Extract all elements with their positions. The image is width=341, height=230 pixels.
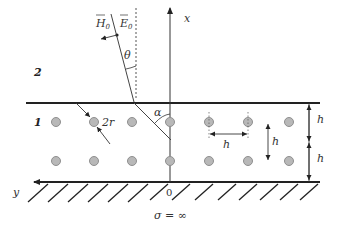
- h-horizontal-label: h: [223, 138, 230, 151]
- alpha-label: α: [154, 106, 162, 119]
- diameter-label: 2r: [101, 116, 115, 129]
- h-right-top-label: h: [317, 113, 324, 126]
- conductivity-label: σ = ∞: [154, 209, 187, 222]
- theta-label: θ: [124, 49, 131, 62]
- x-axis-label: x: [184, 12, 191, 25]
- region-2-label: 2: [33, 66, 42, 79]
- E0-label: E0: [119, 17, 133, 31]
- region-1-label: 1: [34, 116, 42, 129]
- cylinder-row-bottom: [52, 157, 294, 166]
- waveguide-diagram: x H0 E0 θ α 2 1 2r: [0, 0, 341, 230]
- theta-arc: [126, 66, 136, 69]
- diameter-pointer-top: [76, 103, 90, 117]
- y-axis-label: y: [12, 186, 20, 199]
- diameter-pointer-bottom: [97, 127, 110, 144]
- origin-label: 0: [166, 187, 172, 198]
- H0-vector-arrow: [101, 35, 117, 39]
- cylinder-row-top: [52, 118, 294, 127]
- conductor-hatching: [28, 184, 318, 202]
- h-right-bottom-label: h: [317, 152, 324, 165]
- H0-label: H0: [95, 17, 111, 31]
- h-vertical-label: h: [272, 135, 279, 148]
